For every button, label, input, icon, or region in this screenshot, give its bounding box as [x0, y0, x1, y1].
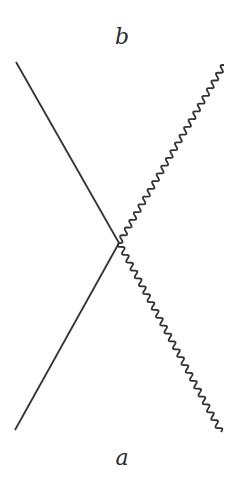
straight-line-upper — [16, 62, 119, 243]
wavy-line-lower — [118, 243, 223, 432]
wavy-line-upper — [119, 65, 224, 243]
straight-line-lower — [15, 243, 119, 430]
feynman-diagram — [0, 0, 243, 492]
